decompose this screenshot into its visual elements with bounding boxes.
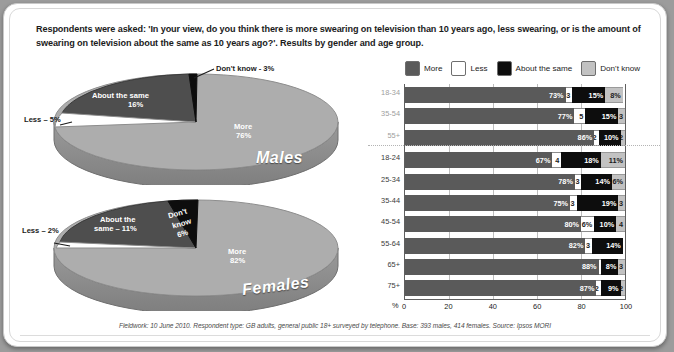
bar-category-label-18-34: 18-34	[368, 88, 400, 97]
legend-label-dont-know: Don't know	[600, 64, 640, 73]
segment-about-the-same: 8%	[601, 259, 619, 275]
segment-more: 75%	[405, 195, 570, 211]
bar-category-label-18-24: 18-24	[368, 153, 400, 162]
bar-row: 75%319%3	[405, 195, 625, 211]
legend-label-about-the-same: About the same	[516, 64, 573, 73]
pie-chart-males: Don't know - 3% About the same 16% Less …	[46, 65, 346, 185]
segment-about-the-same: 14%	[592, 238, 623, 254]
bar-row: 80%6%10%4	[405, 216, 625, 232]
males-title: Males	[256, 149, 303, 167]
bar-row: 87%29%2	[405, 280, 625, 296]
males-about-the-same-value: 16%	[128, 100, 143, 109]
segment-more-value: 80%	[564, 220, 581, 229]
segment-about-the-same-value: 15%	[602, 112, 619, 121]
segment-more: 87%	[405, 280, 596, 296]
females-about-the-same-label-2: same – 11%	[94, 224, 137, 233]
segment-more-value: 82%	[569, 241, 586, 250]
segment-dont-know-value: 3	[619, 199, 625, 208]
segment-less: 3	[566, 87, 573, 103]
pie-females-graphic	[46, 191, 346, 311]
segment-about-the-same: 15%	[572, 87, 605, 103]
bar-category-label-65plus: 65+	[368, 260, 400, 269]
segment-less: 6%	[581, 216, 594, 232]
segment-more: 67%	[405, 152, 552, 168]
segment-dont-know: 2	[621, 130, 625, 146]
x-tick-80: 80	[577, 302, 585, 311]
bar-category-label-55-64: 55-64	[368, 239, 400, 248]
females-more-label: More	[228, 247, 246, 256]
segment-more-value: 77%	[558, 112, 575, 121]
question-text: Respondents were asked: 'In your view, d…	[36, 23, 652, 50]
segment-dont-know-value: 3	[619, 112, 625, 121]
legend-item-dont-know: Don't know	[581, 61, 640, 76]
pie-males-graphic	[46, 65, 346, 185]
segment-about-the-same: 15%	[585, 108, 618, 124]
segment-more-value: 73%	[549, 91, 566, 100]
bar-category-label-55plus: 55+	[368, 131, 400, 140]
segment-more: 88%	[405, 259, 599, 275]
segment-more-value: 78%	[558, 177, 575, 186]
x-tick-60: 60	[533, 302, 541, 311]
x-tick-20: 20	[444, 302, 452, 311]
segment-about-the-same-value: 8%	[606, 262, 619, 271]
segment-about-the-same-value: 19%	[602, 199, 619, 208]
segment-about-the-same: 10%	[599, 130, 621, 146]
segment-dont-know: 4	[616, 216, 625, 232]
legend-swatch-about-the-same	[497, 61, 512, 76]
x-tick-40: 40	[489, 302, 497, 311]
segment-more: 78%	[405, 174, 575, 190]
segment-less: 5	[574, 108, 585, 124]
segment-dont-know-value: 4	[619, 220, 625, 229]
females-more-value: 82%	[230, 256, 245, 265]
segment-dont-know-value: 11%	[609, 156, 625, 165]
footnote-divider	[20, 335, 650, 336]
bar-category-label-35-44: 35-44	[368, 196, 400, 205]
females-less-label: Less – 2%	[22, 226, 59, 235]
segment-more: 82%	[405, 238, 585, 254]
legend-label-less: Less	[470, 64, 487, 73]
males-more-label: More	[234, 122, 252, 131]
bar-row: 88%8%3	[405, 259, 625, 275]
segment-less: 3	[570, 195, 577, 211]
segment-dont-know-value: 3	[619, 262, 625, 271]
segment-dont-know: 11%	[601, 152, 625, 168]
bar-row: 78%314%6%	[405, 174, 625, 190]
segment-about-the-same-value: 14%	[606, 241, 623, 250]
chart-legend: More Less About the same Don't know	[405, 61, 649, 76]
bar-plot-area: 73%315%8%77%515%386%210%267%418%11%78%31…	[404, 84, 626, 299]
segment-more: 77%	[405, 108, 574, 124]
x-axis: 020406080100	[404, 299, 626, 314]
stacked-bar-chart: 73%315%8%77%515%386%210%267%418%11%78%31…	[368, 81, 660, 316]
bar-category-label-45-54: 45-54	[368, 217, 400, 226]
segment-about-the-same: 18%	[561, 152, 601, 168]
bar-category-label-35-54: 35-54	[368, 109, 400, 118]
inner-panel: Respondents were asked: 'In your view, d…	[9, 8, 661, 342]
bar-category-label-75plus: 75+	[368, 281, 400, 290]
males-less-label: Less – 5%	[24, 115, 61, 124]
segment-dont-know-value: 8%	[610, 91, 623, 100]
segment-about-the-same: 9%	[601, 280, 621, 296]
segment-less: 3	[585, 238, 592, 254]
females-about-the-same-label-1: About the	[100, 215, 135, 224]
males-more-value: 76%	[236, 131, 251, 140]
legend-item-more: More	[405, 61, 442, 76]
segment-about-the-same-value: 10%	[604, 133, 621, 142]
pie-charts-area: Don't know - 3% About the same 16% Less …	[24, 55, 364, 311]
segment-dont-know: 8%	[605, 87, 623, 103]
legend-item-less: Less	[451, 61, 487, 76]
segment-about-the-same-value: 18%	[584, 156, 601, 165]
segment-dont-know: 2	[621, 280, 625, 296]
segment-about-the-same-value: 14%	[595, 177, 612, 186]
segment-more-value: 67%	[536, 156, 553, 165]
group-divider	[368, 145, 660, 146]
segment-less: 4	[552, 152, 561, 168]
x-tick-0: 0	[402, 302, 406, 311]
bar-row: 82%314%	[405, 238, 625, 254]
segment-more: 86%	[405, 130, 594, 146]
males-about-the-same-label: About the same	[92, 91, 149, 100]
pie-chart-females: Less – 2% About the same – 11% Don't kno…	[46, 191, 346, 311]
legend-label-more: More	[424, 64, 442, 73]
segment-about-the-same: 19%	[577, 195, 619, 211]
segment-dont-know: 3	[618, 259, 625, 275]
segment-dont-know-value: 6%	[612, 177, 625, 186]
